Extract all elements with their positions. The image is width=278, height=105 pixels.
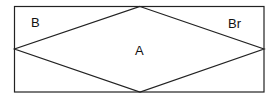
diagram-canvas: B Br A — [0, 0, 278, 105]
label-br: Br — [228, 16, 242, 31]
label-a: A — [135, 43, 144, 58]
label-b: B — [31, 15, 40, 30]
